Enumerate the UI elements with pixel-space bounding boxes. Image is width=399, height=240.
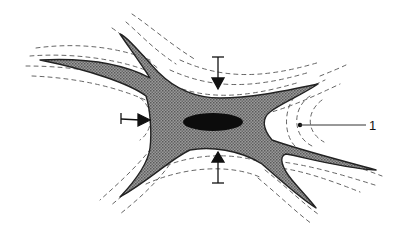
label-1: 1 [369, 118, 376, 133]
arrow-bottom [212, 152, 224, 183]
cell-diagram: 1 [0, 0, 399, 240]
arrow-left [121, 113, 150, 126]
label-1-leader [298, 123, 366, 127]
nucleus [183, 113, 243, 131]
